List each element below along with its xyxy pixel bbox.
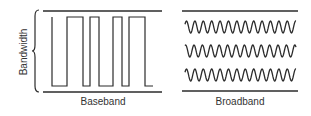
broadband-label: Broadband xyxy=(216,96,265,107)
broadband-panel xyxy=(182,11,298,91)
bandwidth-brace xyxy=(32,10,39,92)
baseband-panel xyxy=(43,11,162,92)
broadband-channel-1-wave xyxy=(185,21,296,33)
baseband-vs-broadband-diagram: Bandwidth Baseband Broadband xyxy=(0,0,311,116)
broadband-channel-3-wave xyxy=(185,69,296,81)
baseband-label: Baseband xyxy=(80,96,125,107)
broadband-channel-2-wave xyxy=(185,45,296,57)
baseband-square-wave xyxy=(52,17,153,86)
bandwidth-axis-label: Bandwidth xyxy=(18,29,29,76)
